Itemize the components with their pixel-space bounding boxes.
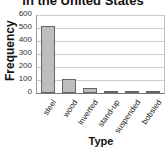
bar-bobsled: [146, 91, 160, 93]
gridline: [37, 54, 164, 55]
bar-wood: [62, 79, 76, 93]
bar-inverted: [83, 88, 97, 93]
y-tick-label: 200: [8, 61, 32, 70]
x-tick-label: wood: [61, 98, 79, 119]
bar-stand-up: [104, 91, 118, 93]
gridline: [37, 41, 164, 42]
x-axis-label: Type: [36, 135, 166, 147]
plot-area: [36, 15, 165, 94]
y-tick-label: 600: [8, 9, 32, 18]
y-tick-label: 300: [8, 48, 32, 57]
y-tick-label: 400: [8, 35, 32, 44]
x-tick-label: bobsled: [140, 98, 163, 126]
gridline: [37, 15, 164, 16]
chart-title: in the United States: [0, 0, 166, 8]
y-tick-label: 500: [8, 22, 32, 31]
bar-steel: [41, 26, 55, 93]
gridline: [37, 80, 164, 81]
y-tick-label: 100: [8, 74, 32, 83]
x-tick-label: steel: [41, 98, 58, 117]
y-tick-label: 0: [8, 87, 32, 96]
gridline: [37, 28, 164, 29]
gridline: [37, 67, 164, 68]
bar-suspended: [125, 91, 139, 93]
